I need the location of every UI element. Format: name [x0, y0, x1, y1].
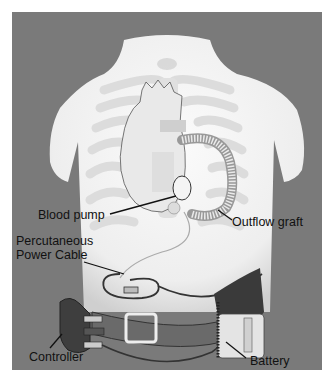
label-controller: Controller [29, 350, 83, 364]
label-power-cable-line2: Power Cable [16, 248, 88, 262]
diagram-frame: Blood pump Outflow graft Percutaneous Po… [12, 12, 322, 370]
label-power-cable-line1: Percutaneous [16, 234, 93, 248]
label-battery: Battery [250, 354, 290, 368]
lvad-illustration [12, 12, 322, 370]
label-outflow-graft: Outflow graft [232, 215, 303, 229]
label-blood-pump: Blood pump [38, 208, 105, 222]
